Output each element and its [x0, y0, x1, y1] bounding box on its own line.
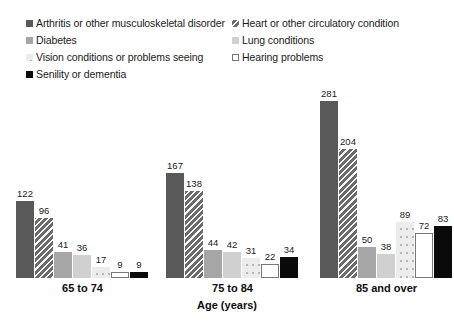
- bar-column: 138: [185, 82, 203, 278]
- bar-value-label: 41: [58, 239, 69, 250]
- bar-value-label: 44: [208, 237, 219, 248]
- bar[interactable]: [396, 222, 414, 278]
- legend-item[interactable]: Arthritis or other musculoskeletal disor…: [26, 16, 225, 32]
- plot-area: 1229641361799167138444231223428120450388…: [0, 82, 454, 278]
- chart-legend: Arthritis or other musculoskeletal disor…: [0, 0, 454, 82]
- bar-group: 1671384442312234: [166, 82, 299, 278]
- bar-column: 41: [54, 82, 72, 278]
- bar-value-label: 83: [438, 213, 449, 224]
- bar-value-label: 38: [381, 241, 392, 252]
- bar-column: 50: [358, 82, 376, 278]
- bar[interactable]: [261, 264, 279, 278]
- x-axis-title: Age (years): [0, 299, 454, 311]
- bar-column: 72: [415, 82, 433, 278]
- bar-column: 38: [377, 82, 395, 278]
- bar-value-label: 89: [400, 209, 411, 220]
- bar-value-label: 9: [117, 259, 122, 270]
- legend-column-left: Arthritis or other musculoskeletal disor…: [26, 16, 225, 84]
- bar-column: 42: [223, 82, 241, 278]
- bar-value-label: 17: [96, 254, 107, 265]
- bar-value-label: 96: [39, 205, 50, 216]
- bar-value-label: 72: [419, 220, 430, 231]
- bar[interactable]: [280, 257, 298, 278]
- legend-swatch-vision: [26, 54, 33, 61]
- bar-value-label: 9: [136, 259, 141, 270]
- legend-swatch-lung: [232, 37, 239, 44]
- bar-value-label: 167: [167, 160, 183, 171]
- bar-column: 9: [111, 82, 129, 278]
- bar-column: 89: [396, 82, 414, 278]
- legend-swatch-diabetes: [26, 37, 33, 44]
- bar-column: 17: [92, 82, 110, 278]
- bar[interactable]: [377, 254, 395, 278]
- bar-value-label: 31: [246, 245, 257, 256]
- bar[interactable]: [92, 267, 110, 278]
- bar-chart: Arthritis or other musculoskeletal disor…: [0, 0, 454, 322]
- bar-value-label: 42: [227, 239, 238, 250]
- legend-swatch-heart: [232, 20, 239, 27]
- bar-column: 44: [204, 82, 222, 278]
- legend-item-label: Arthritis or other musculoskeletal disor…: [36, 16, 225, 31]
- bar[interactable]: [242, 258, 260, 278]
- group-label-2: 85 and over: [320, 282, 453, 294]
- bar-column: 9: [130, 82, 148, 278]
- legend-swatch-senility: [26, 71, 33, 78]
- bar[interactable]: [204, 250, 222, 278]
- bar-value-label: 138: [186, 178, 202, 189]
- bar[interactable]: [434, 226, 452, 278]
- legend-item[interactable]: Heart or other circulatory condition: [232, 16, 399, 32]
- bar[interactable]: [130, 272, 148, 278]
- legend-swatch-arthritis: [26, 20, 33, 27]
- bar[interactable]: [339, 149, 357, 278]
- legend-item-label: Heart or other circulatory condition: [242, 16, 399, 31]
- bar-column: 83: [434, 82, 452, 278]
- bar-column: 204: [339, 82, 357, 278]
- legend-item[interactable]: Lung conditions: [232, 33, 399, 49]
- bar[interactable]: [166, 173, 184, 278]
- bar-group: 1229641361799: [16, 82, 149, 278]
- bar-group: 2812045038897283: [320, 82, 453, 278]
- legend-item[interactable]: Hearing problems: [232, 50, 399, 66]
- bar[interactable]: [415, 233, 433, 278]
- bar-column: 36: [73, 82, 91, 278]
- bar[interactable]: [16, 201, 34, 278]
- bar-value-label: 22: [265, 251, 276, 262]
- bar-value-label: 204: [340, 136, 356, 147]
- bar[interactable]: [35, 218, 53, 278]
- group-label-0: 65 to 74: [16, 282, 149, 294]
- legend-item-label: Senility or dementia: [36, 67, 126, 82]
- bar-column: 122: [16, 82, 34, 278]
- legend-item-label: Diabetes: [36, 33, 77, 48]
- bar-column: 96: [35, 82, 53, 278]
- legend-item-label: Lung conditions: [242, 33, 314, 48]
- bar-value-label: 36: [77, 242, 88, 253]
- bar[interactable]: [358, 247, 376, 279]
- legend-item[interactable]: Senility or dementia: [26, 67, 225, 83]
- bar-column: 167: [166, 82, 184, 278]
- bar[interactable]: [111, 272, 129, 278]
- bar[interactable]: [54, 252, 72, 278]
- bar-column: 34: [280, 82, 298, 278]
- legend-column-right: Heart or other circulatory conditionLung…: [232, 16, 399, 67]
- legend-item-label: Hearing problems: [242, 50, 323, 65]
- legend-item[interactable]: Vision conditions or problems seeing: [26, 50, 225, 66]
- legend-item[interactable]: Diabetes: [26, 33, 225, 49]
- bar-column: 31: [242, 82, 260, 278]
- bar[interactable]: [73, 255, 91, 278]
- bar[interactable]: [320, 101, 338, 278]
- bar-value-label: 281: [321, 88, 337, 99]
- legend-item-label: Vision conditions or problems seeing: [36, 50, 203, 65]
- group-label-1: 75 to 84: [166, 282, 299, 294]
- bar-value-label: 34: [284, 244, 295, 255]
- bar[interactable]: [223, 252, 241, 278]
- bar-column: 281: [320, 82, 338, 278]
- bar-column: 22: [261, 82, 279, 278]
- legend-swatch-hearing: [232, 54, 239, 61]
- bar[interactable]: [185, 191, 203, 278]
- bar-value-label: 122: [17, 188, 33, 199]
- bar-value-label: 50: [362, 234, 373, 245]
